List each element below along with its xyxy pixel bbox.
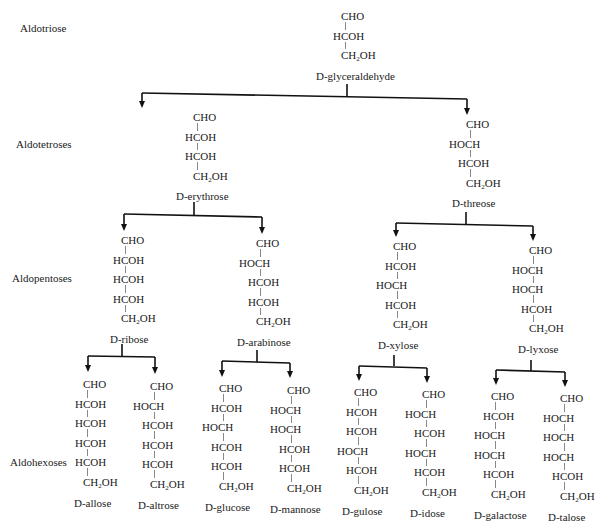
fischer-group: CH2OH: [491, 488, 526, 500]
fischer-group: CH2OH: [287, 482, 322, 494]
sugar-name: D-galactose: [474, 509, 527, 521]
bond-line: [260, 269, 261, 277]
fischer-group: HOCH: [270, 404, 301, 416]
fischer-group: CH2OH: [529, 322, 564, 334]
bond-line: [358, 418, 359, 426]
fischer-group: HCOH: [142, 419, 173, 431]
fischer-group: CHO: [529, 244, 552, 256]
bond-line: [533, 315, 534, 323]
bond-line: [125, 285, 126, 293]
fischer-group: CHO: [341, 10, 364, 22]
bond-line: [125, 266, 126, 274]
fischer-group: HCOH: [521, 303, 552, 315]
fischer-group: HCOH: [75, 456, 106, 468]
fischer-group: HCOH: [385, 299, 416, 311]
bond-line: [358, 457, 359, 465]
bond-line: [533, 276, 534, 284]
bond-line: [197, 143, 198, 151]
fischer-group: HOCH: [474, 429, 505, 441]
sugar-name: D-threose: [452, 197, 495, 209]
fischer-group: HCOH: [185, 131, 216, 143]
fischer-group: HOCH: [405, 447, 436, 459]
bond-line: [426, 478, 427, 486]
fischer-group: HOCH: [512, 264, 543, 276]
bond-line: [154, 470, 155, 478]
bond-line: [564, 482, 565, 490]
fischer-group: HOCH: [543, 431, 574, 443]
bond-line: [125, 246, 126, 254]
bond-line: [125, 305, 126, 313]
fischer-group: CH2OH: [121, 312, 156, 324]
fischer-group: HCOH: [211, 441, 242, 453]
bond-line: [154, 451, 155, 459]
bond-line: [358, 476, 359, 484]
fischer-group: CHO: [219, 382, 242, 394]
bond-line: [470, 130, 471, 138]
fischer-group: CHO: [491, 390, 514, 402]
fischer-group: HCOH: [113, 254, 144, 266]
sugar-name: D-altrose: [138, 499, 179, 511]
bond-line: [154, 392, 155, 400]
bond-line: [197, 162, 198, 170]
bond-line: [87, 468, 88, 476]
fischer-group: CHO: [150, 380, 173, 392]
level-label: Aldopentoses: [12, 272, 72, 284]
bond-line: [397, 252, 398, 260]
bond-line: [87, 429, 88, 437]
fischer-group: HOCH: [449, 138, 480, 150]
sugar-name: D-gulose: [342, 505, 382, 517]
fischer-group: HCOH: [385, 260, 416, 272]
bond-line: [564, 443, 565, 451]
fischer-group: HOCH: [512, 283, 543, 295]
fischer-group: HCOH: [414, 466, 445, 478]
fischer-group: HOCH: [133, 400, 164, 412]
fischer-group: HCOH: [211, 402, 242, 414]
fischer-group: HOCH: [474, 449, 505, 461]
fischer-group: HCOH: [185, 150, 216, 162]
bond-line: [470, 169, 471, 177]
bond-line: [260, 308, 261, 316]
fischer-group: CHO: [193, 111, 216, 123]
fischer-group: HCOH: [142, 439, 173, 451]
bond-line: [223, 453, 224, 461]
bond-line: [358, 437, 359, 445]
fischer-group: HCOH: [333, 30, 364, 42]
fischer-group: CH2OH: [422, 486, 457, 498]
fischer-group: HOCH: [405, 408, 436, 420]
fischer-group: CHO: [354, 386, 377, 398]
bond-line: [533, 256, 534, 264]
bond-line: [260, 249, 261, 257]
fischer-group: HCOH: [279, 462, 310, 474]
bond-line: [223, 414, 224, 422]
bond-line: [470, 150, 471, 158]
bond-line: [533, 295, 534, 303]
fischer-group: HCOH: [75, 398, 106, 410]
fischer-group: HOCH: [337, 445, 368, 457]
fischer-group: CHO: [287, 384, 310, 396]
sugar-name: D-allose: [74, 497, 111, 509]
fischer-group: HCOH: [113, 293, 144, 305]
fischer-group: HCOH: [458, 157, 489, 169]
fischer-group: HCOH: [414, 427, 445, 439]
fischer-group: HOCH: [270, 423, 301, 435]
fischer-group: HCOH: [552, 470, 583, 482]
fischer-group: CHO: [83, 378, 106, 390]
fischer-group: HCOH: [142, 458, 173, 470]
sugar-name: D-erythrose: [176, 190, 229, 202]
fischer-group: HOCH: [239, 257, 270, 269]
bond-line: [87, 390, 88, 398]
level-label: Aldotriose: [20, 22, 66, 34]
fischer-group: CH2OH: [393, 318, 428, 330]
bond-line: [223, 472, 224, 480]
level-label: Aldotetroses: [16, 138, 72, 150]
bond-line: [397, 311, 398, 319]
bond-line: [291, 416, 292, 424]
bond-line: [87, 410, 88, 418]
fischer-group: CH2OH: [354, 484, 389, 496]
fischer-group: HCOH: [346, 464, 377, 476]
bond-line: [197, 123, 198, 131]
fischer-group: HCOH: [346, 425, 377, 437]
fischer-group: HCOH: [75, 417, 106, 429]
bond-line: [564, 424, 565, 432]
bond-line: [358, 398, 359, 406]
